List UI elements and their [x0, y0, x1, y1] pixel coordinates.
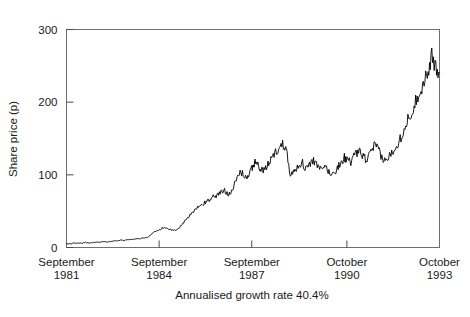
- x-tick-label-month: September: [224, 256, 280, 268]
- x-tick-label-year: 1981: [54, 269, 80, 281]
- y-tick-label: 300: [38, 24, 57, 36]
- x-axis-tick-labels: September1981September1984September1987O…: [38, 256, 460, 281]
- y-axis-tick-marks: [67, 30, 74, 248]
- x-tick-label-month: September: [131, 256, 187, 268]
- y-tick-label: 100: [38, 169, 57, 181]
- y-tick-label: 200: [38, 96, 57, 108]
- x-tick-label-year: 1987: [239, 269, 265, 281]
- y-tick-label: 0: [51, 242, 57, 254]
- share-price-chart: 0100200300 September1981September1984Sep…: [0, 0, 470, 317]
- share-price-line: [67, 48, 440, 244]
- y-axis-label: Share price (p): [7, 101, 19, 177]
- plot-frame: [67, 30, 440, 248]
- x-tick-label-month: October: [326, 256, 367, 268]
- chart-caption: Annualised growth rate 40.4%: [175, 289, 328, 301]
- x-tick-label-year: 1990: [334, 269, 360, 281]
- chart-figure: 0100200300 September1981September1984Sep…: [0, 0, 470, 317]
- x-axis-tick-marks: [159, 241, 347, 248]
- data-series-group: [67, 48, 440, 244]
- x-tick-label-month: October: [419, 256, 460, 268]
- x-tick-label-year: 1984: [146, 269, 172, 281]
- x-tick-label-month: September: [38, 256, 94, 268]
- y-axis-tick-labels: 0100200300: [38, 24, 57, 254]
- x-tick-label-year: 1993: [427, 269, 453, 281]
